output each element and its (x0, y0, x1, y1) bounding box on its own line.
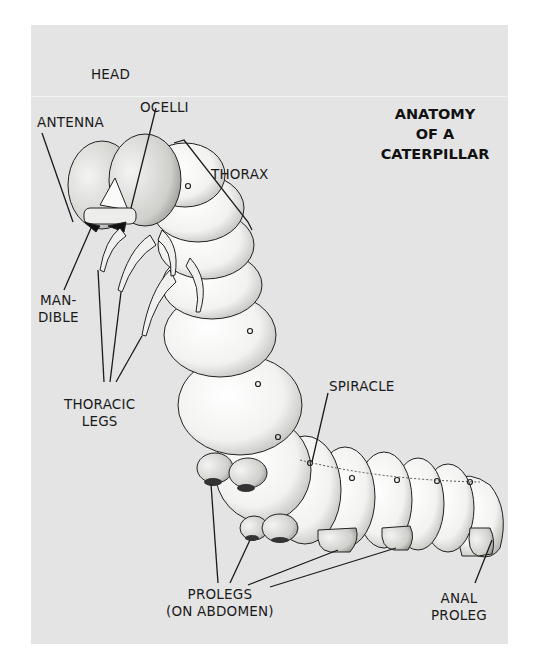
caterpillar-head (68, 134, 181, 232)
label-anal-proleg: ANAL PROLEG (431, 590, 487, 624)
label-anal-proleg-line1: ANAL (431, 590, 487, 607)
label-thoracic-legs: THORACIC LEGS (64, 396, 135, 430)
label-mandible-line2: DIBLE (38, 309, 79, 326)
label-anal-proleg-line2: PROLEG (431, 607, 487, 624)
caterpillar-body (145, 143, 503, 557)
title-line3: CATERPILLAR (372, 144, 498, 164)
label-thoracic-legs-line2: LEGS (64, 413, 135, 430)
caterpillar-illustration (0, 0, 553, 663)
label-spiracle: SPIRACLE (329, 378, 395, 395)
diagram-title: ANATOMY OF A CATERPILLAR (372, 104, 498, 164)
label-thorax: THORAX (211, 166, 269, 183)
label-prolegs: PROLEGS (ON ABDOMEN) (166, 586, 274, 620)
label-head: HEAD (91, 66, 130, 83)
label-prolegs-line1: PROLEGS (166, 586, 274, 603)
label-prolegs-line2: (ON ABDOMEN) (166, 603, 274, 620)
label-antenna: ANTENNA (37, 114, 104, 131)
label-ocelli: OCELLI (140, 99, 189, 116)
title-line2: OF A (372, 124, 498, 144)
label-mandible-line1: MAN- (38, 292, 79, 309)
label-thoracic-legs-line1: THORACIC (64, 396, 135, 413)
title-line1: ANATOMY (372, 104, 498, 124)
label-mandible: MAN- DIBLE (38, 292, 79, 326)
